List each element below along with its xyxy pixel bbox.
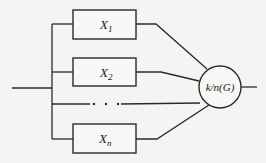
branch-x1-out <box>136 24 207 69</box>
ellipsis-dot <box>93 103 95 105</box>
voter-label: k/n(G) <box>206 81 235 94</box>
branch-xn-out <box>136 105 209 139</box>
branch-ellipsis-out <box>121 103 200 104</box>
ellipsis-dot <box>117 103 119 105</box>
ellipsis-dot <box>105 103 107 105</box>
reliability-diagram: X1 X2 Xn k/n(G) <box>0 0 266 163</box>
branch-x2-out <box>136 72 199 81</box>
